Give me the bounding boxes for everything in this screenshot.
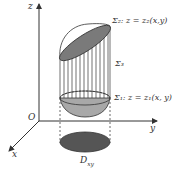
region-label: Dxy (80, 156, 94, 167)
y-axis-label: y (150, 124, 155, 133)
sigma3-label: Σ₃ (115, 60, 124, 68)
sigma1-label: Σ₁: z = z₁(x, y) (114, 94, 172, 102)
sigma2-label: Σ₂: z = z₂(x,y) (112, 17, 167, 25)
top-surface-sigma2 (55, 20, 114, 66)
projected-region-dxy (60, 132, 110, 152)
bottom-surface-sigma1 (60, 98, 110, 117)
region-label-sub: xy (87, 160, 94, 167)
diagram-graphics (0, 0, 174, 172)
x-axis-label: x (12, 150, 17, 159)
z-axis-label: z (28, 2, 33, 11)
origin-label: O (28, 113, 35, 122)
surface-region-diagram: z y x O Σ₂: z = z₂(x,y) Σ₃ Σ₁: z = z₁(x,… (0, 0, 174, 172)
x-axis (9, 121, 39, 151)
